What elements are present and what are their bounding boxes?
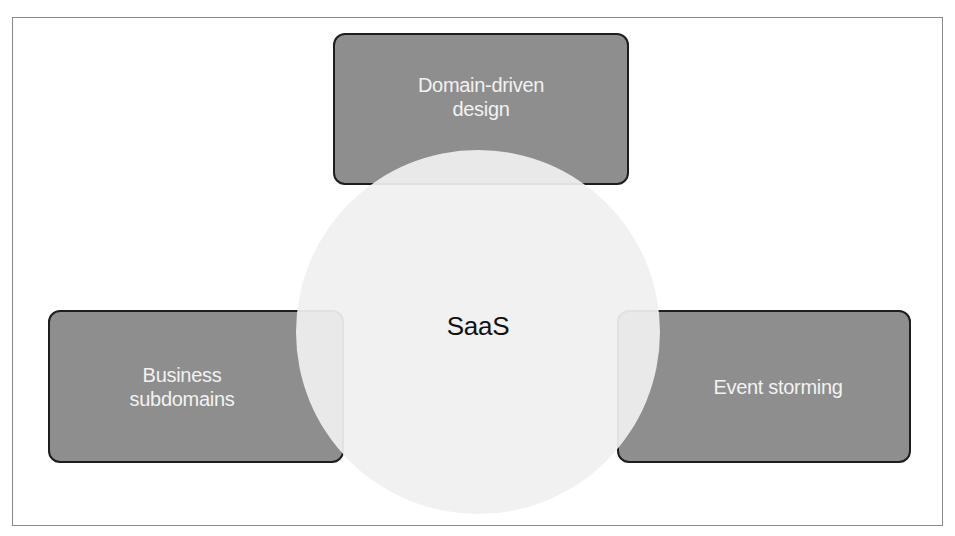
node-label: Event storming xyxy=(713,375,842,399)
center-label: SaaS xyxy=(447,311,509,342)
node-label: Business subdomains xyxy=(130,363,235,411)
node-label-line: design xyxy=(452,98,509,120)
center-circle-saas: SaaS xyxy=(296,150,660,514)
node-label-line: Event storming xyxy=(713,376,842,398)
node-label-line: Domain-driven xyxy=(418,74,544,96)
node-label: Domain-driven design xyxy=(418,73,544,121)
node-label-line: subdomains xyxy=(130,388,235,410)
node-label-line: Business xyxy=(143,364,222,386)
node-event-storming: Event storming xyxy=(617,310,911,463)
